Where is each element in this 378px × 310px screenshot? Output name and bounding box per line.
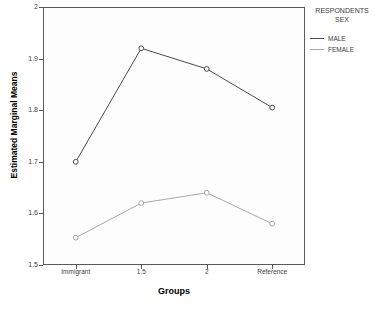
- series-female: [73, 190, 274, 240]
- series-line: [76, 48, 273, 162]
- legend-entry-male: MALE: [310, 33, 378, 44]
- legend-title: RESPONDENTS SEX: [306, 6, 378, 24]
- x-tick-label: 2: [205, 268, 209, 275]
- y-tick-mark: [39, 162, 43, 163]
- legend-entry-female: FEMALE: [310, 44, 378, 55]
- y-tick-mark: [39, 265, 43, 266]
- y-tick-mark: [39, 213, 43, 214]
- y-tick-mark: [39, 110, 43, 111]
- x-tick-mark: [207, 265, 208, 269]
- x-axis-title: Groups: [43, 286, 305, 296]
- data-point-marker: [139, 201, 144, 206]
- legend-title-line1: RESPONDENTS: [315, 7, 368, 14]
- chart-plot-lines: [43, 7, 305, 265]
- y-tick-label: 2: [34, 3, 38, 11]
- y-tick-label: 1.8: [28, 106, 38, 114]
- legend-title-line2: SEX: [306, 15, 378, 24]
- legend-label: FEMALE: [328, 46, 354, 53]
- data-point-marker: [270, 221, 275, 226]
- series-male: [73, 46, 274, 164]
- x-tick-label: Immigrant: [61, 268, 90, 275]
- data-point-marker: [73, 235, 78, 240]
- legend-line-swatch: [310, 49, 324, 50]
- data-point-marker: [139, 46, 144, 51]
- y-tick-mark: [39, 59, 43, 60]
- y-tick-label: 1.5: [28, 261, 38, 269]
- x-tick-label: Reference: [257, 268, 287, 275]
- x-tick-mark: [272, 265, 273, 269]
- data-point-marker: [204, 67, 209, 72]
- y-tick-label: 1.9: [28, 55, 38, 63]
- x-tick-mark: [141, 265, 142, 269]
- data-point-marker: [270, 105, 275, 110]
- x-tick-mark: [76, 265, 77, 269]
- series-line: [76, 193, 273, 238]
- y-tick-label: 1.7: [28, 158, 38, 166]
- chart-screenshot: 21.91.81.71.61.5 Estimated Marginal Mean…: [0, 0, 378, 310]
- x-tick-label: 1.5: [137, 268, 146, 275]
- legend-entries: MALEFEMALE: [306, 33, 378, 55]
- legend-label: MALE: [328, 35, 346, 42]
- legend: RESPONDENTS SEX MALEFEMALE: [306, 6, 378, 55]
- y-tick-label: 1.6: [28, 209, 38, 217]
- y-axis-title: Estimated Marginal Means: [9, 35, 19, 215]
- legend-line-swatch: [310, 38, 324, 39]
- data-point-marker: [73, 159, 78, 164]
- y-axis-tick-labels: 21.91.81.71.61.5: [0, 0, 38, 310]
- data-point-marker: [204, 190, 209, 195]
- y-tick-mark: [39, 7, 43, 8]
